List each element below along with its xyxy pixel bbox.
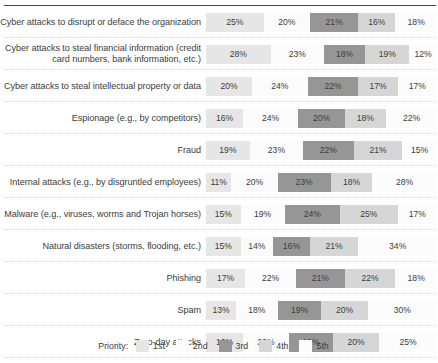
bar-segment-2nd: 22%: [245, 269, 296, 288]
segment-value-label: 22%: [361, 273, 378, 283]
segment-value-label: 15%: [215, 241, 232, 251]
bar-segment-1st: 16%: [206, 109, 243, 128]
segment-value-label: 21%: [369, 145, 386, 155]
bar-segment-4th: 21%: [310, 237, 359, 256]
segment-value-label: 16%: [283, 241, 300, 251]
bar-segment-3rd: 21%: [310, 13, 359, 32]
bar-segment-2nd: 18%: [236, 301, 278, 320]
bar-segment-3rd: 18%: [324, 45, 366, 64]
bar-segment-4th: 18%: [331, 173, 373, 192]
bar-segment-1st: 20%: [206, 77, 252, 96]
chart-legend: Priority: 1st2nd3rd4th5th: [0, 335, 438, 357]
segment-value-label: 20%: [246, 177, 263, 187]
legend-label: 3rd: [236, 341, 249, 351]
legend-item-2nd[interactable]: 2nd: [176, 340, 208, 352]
segment-value-label: 23%: [268, 145, 285, 155]
bar-segment-3rd: 22%: [303, 141, 354, 160]
bar-segment-3rd: 19%: [278, 301, 322, 320]
bar-segment-5th: 12%: [409, 45, 437, 64]
bar-segment-1st: 17%: [206, 269, 245, 288]
bar-segment-1st: 15%: [206, 205, 241, 224]
bar-segment-5th: 18%: [395, 13, 437, 32]
bar-segment-2nd: 23%: [250, 141, 303, 160]
category-label: Cyber attacks to steal intellectual prop…: [0, 81, 206, 92]
segment-value-label: 18%: [343, 177, 360, 187]
segment-value-label: 14%: [248, 241, 265, 251]
legend-item-5th[interactable]: 5th: [299, 340, 328, 352]
segment-value-label: 16%: [216, 113, 233, 123]
stacked-bar: 28%23%18%19%12%: [206, 45, 437, 64]
bar-segment-4th: 18%: [345, 109, 387, 128]
bar-segment-5th: 17%: [398, 77, 437, 96]
legend-label: 4th: [276, 341, 288, 351]
bar-segment-3rd: 21%: [296, 269, 345, 288]
segment-value-label: 11%: [210, 177, 227, 187]
chart-row: Fraud19%23%22%21%15%: [0, 134, 438, 166]
chart-row: Phishing17%22%21%22%18%: [0, 262, 438, 294]
bar-segment-1st: 28%: [206, 45, 271, 64]
legend-swatch-icon: [219, 340, 232, 352]
legend-label: 1st: [153, 341, 165, 351]
stacked-bar: 19%23%22%21%15%: [206, 141, 437, 160]
bar-segment-5th: 18%: [395, 269, 437, 288]
segment-value-label: 15%: [411, 145, 428, 155]
legend-item-3rd[interactable]: 3rd: [219, 340, 249, 352]
chart-row: Internal attacks (e.g., by disgruntled e…: [0, 166, 438, 198]
segment-value-label: 19%: [254, 209, 271, 219]
segment-value-label: 22%: [262, 273, 279, 283]
segment-value-label: 34%: [389, 241, 406, 251]
segment-value-label: 22%: [324, 81, 341, 91]
bar-segment-1st: 15%: [206, 237, 241, 256]
segment-value-label: 23%: [296, 177, 313, 187]
legend-swatch-icon: [299, 340, 312, 352]
bar-segment-5th: 30%: [368, 301, 437, 320]
segment-value-label: 20%: [336, 305, 353, 315]
chart-row: Spam13%18%19%20%30%: [0, 294, 438, 326]
stacked-bar: 25%20%21%16%18%: [206, 13, 437, 32]
segment-value-label: 21%: [326, 17, 343, 27]
legend-swatch-icon: [259, 340, 272, 352]
category-label: Malware (e.g., viruses, worms and Trojan…: [0, 209, 206, 220]
bar-segment-4th: 25%: [340, 205, 398, 224]
segment-value-label: 15%: [215, 209, 232, 219]
segment-value-label: 23%: [289, 49, 306, 59]
chart-rows: Cyber attacks to disrupt or deface the o…: [0, 6, 438, 358]
chart-row: Malware (e.g., viruses, worms and Trojan…: [0, 198, 438, 230]
bar-segment-2nd: 20%: [231, 173, 277, 192]
chart-row: Cyber attacks to disrupt or deface the o…: [0, 6, 438, 38]
segment-value-label: 17%: [369, 81, 386, 91]
stacked-bar: 15%19%24%25%17%: [206, 205, 437, 224]
segment-value-label: 19%: [291, 305, 308, 315]
category-label: Internal attacks (e.g., by disgruntled e…: [0, 177, 206, 188]
segment-value-label: 20%: [313, 113, 330, 123]
stacked-bar: 20%24%22%17%17%: [206, 77, 437, 96]
bar-segment-3rd: 20%: [298, 109, 344, 128]
legend-title: Priority:: [98, 341, 128, 351]
legend-item-4th[interactable]: 4th: [259, 340, 288, 352]
segment-value-label: 22%: [403, 113, 420, 123]
bar-segment-1st: 19%: [206, 141, 250, 160]
bar-segment-2nd: 24%: [252, 77, 307, 96]
segment-value-label: 20%: [220, 81, 237, 91]
chart-row: Cyber attacks to steal intellectual prop…: [0, 70, 438, 102]
segment-value-label: 13%: [212, 305, 229, 315]
segment-value-label: 21%: [326, 241, 343, 251]
bar-segment-2nd: 24%: [243, 109, 298, 128]
segment-value-label: 18%: [408, 273, 425, 283]
stacked-bar: 16%24%20%18%22%: [206, 109, 437, 128]
stacked-bar: 15%14%16%21%34%: [206, 237, 437, 256]
segment-value-label: 17%: [217, 273, 234, 283]
bar-segment-1st: 25%: [206, 13, 264, 32]
segment-value-label: 30%: [394, 305, 411, 315]
bar-segment-5th: 15%: [402, 141, 437, 160]
category-label: Cyber attacks to disrupt or deface the o…: [0, 17, 206, 28]
bar-segment-3rd: 22%: [308, 77, 359, 96]
chart-row: Cyber attacks to steal financial informa…: [0, 38, 438, 70]
bar-segment-5th: 28%: [372, 173, 437, 192]
bar-segment-4th: 19%: [365, 45, 409, 64]
segment-value-label: 24%: [271, 81, 288, 91]
legend-item-1st[interactable]: 1st: [136, 340, 165, 352]
category-label: Fraud: [0, 145, 206, 156]
segment-value-label: 21%: [312, 273, 329, 283]
segment-value-label: 28%: [230, 49, 247, 59]
